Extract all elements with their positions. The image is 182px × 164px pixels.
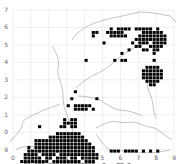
county-boundary-north: [52, 46, 66, 112]
record-cell: [70, 136, 73, 139]
record-cell: [131, 41, 134, 44]
record-cell: [85, 146, 88, 149]
record-cell: [60, 157, 63, 160]
record-cell: [117, 27, 120, 30]
record-cell: [81, 108, 84, 111]
record-cell: [31, 150, 34, 153]
record-cell: [92, 160, 95, 163]
record-cell: [85, 143, 88, 146]
record-cell: [160, 41, 163, 44]
record-cell: [77, 139, 80, 142]
y-axis-label: 4: [4, 58, 8, 65]
record-cell: [63, 139, 66, 142]
record-cell: [145, 66, 148, 69]
record-cell: [92, 108, 95, 111]
record-cell: [77, 104, 80, 107]
record-cell: [156, 66, 159, 69]
record-cell: [153, 80, 156, 83]
record-cell: [67, 132, 70, 135]
district-boundary-central: [76, 44, 142, 88]
record-cell: [92, 150, 95, 153]
x-axis-label: 5: [101, 154, 105, 161]
record-cell: [70, 150, 73, 153]
record-cell: [70, 132, 73, 135]
record-cell: [63, 132, 66, 135]
record-cell: [70, 143, 73, 146]
record-cell: [74, 153, 77, 156]
record-cell: [160, 38, 163, 41]
record-cell: [38, 150, 41, 153]
y-axis-label: 9: [4, 146, 8, 153]
record-cell: [113, 34, 116, 37]
y-axis-label: 5: [4, 41, 8, 48]
record-cell: [149, 83, 152, 86]
record-cell: [138, 34, 141, 37]
record-cell: [149, 66, 152, 69]
record-cell: [52, 136, 55, 139]
record-cell: [45, 143, 48, 146]
record-cell: [85, 104, 88, 107]
record-cell: [85, 139, 88, 142]
record-cell: [149, 76, 152, 79]
record-cell: [74, 118, 77, 121]
record-cell: [77, 150, 80, 153]
y-axis-label: 0: [4, 128, 8, 135]
record-cell: [42, 160, 45, 163]
record-cell: [156, 73, 159, 76]
record-cell: [149, 34, 152, 37]
record-cell: [42, 153, 45, 156]
record-cell: [38, 157, 41, 160]
record-cell: [67, 146, 70, 149]
record-cell: [156, 80, 159, 83]
record-cell: [88, 143, 91, 146]
record-cell: [42, 143, 45, 146]
x-axis-label: 7: [136, 154, 140, 161]
x-axis-label: 0: [11, 154, 15, 161]
record-cell: [60, 153, 63, 156]
record-cell: [81, 139, 84, 142]
record-cell: [124, 59, 127, 62]
record-cell: [74, 143, 77, 146]
record-cell: [60, 125, 63, 128]
x-axis-label: 8: [154, 154, 158, 161]
record-cell: [45, 146, 48, 149]
record-cell: [74, 146, 77, 149]
record-cell: [156, 31, 159, 34]
record-cell: [149, 73, 152, 76]
record-cell: [70, 160, 73, 163]
record-cell: [52, 160, 55, 163]
record-cell: [77, 153, 80, 156]
record-cell: [34, 143, 37, 146]
record-cell: [81, 143, 84, 146]
record-cell: [38, 125, 41, 128]
record-cell: [153, 69, 156, 72]
record-cell: [135, 45, 138, 48]
record-cell: [24, 157, 27, 160]
record-cell: [60, 132, 63, 135]
record-cell: [49, 136, 52, 139]
record-cell: [67, 104, 70, 107]
record-cell: [156, 48, 159, 51]
record-cell: [113, 59, 116, 62]
record-cell: [63, 118, 66, 121]
record-cell: [145, 34, 148, 37]
record-cell: [142, 41, 145, 44]
record-cell: [74, 157, 77, 160]
record-cell: [153, 34, 156, 37]
record-cell: [34, 150, 37, 153]
record-cell: [77, 146, 80, 149]
x-axis-label: 1: [29, 154, 33, 161]
record-cell: [145, 76, 148, 79]
record-cell: [153, 31, 156, 34]
record-cell: [135, 27, 138, 30]
y-axis-label: 6: [4, 23, 8, 30]
y-axis-label: 3: [4, 76, 8, 83]
record-cell: [138, 27, 141, 30]
record-cell: [156, 27, 159, 30]
record-cell: [38, 139, 41, 142]
record-cell: [56, 160, 59, 163]
record-cell: [77, 160, 80, 163]
record-cell: [52, 150, 55, 153]
record-cell: [163, 34, 166, 37]
record-cell: [138, 45, 141, 48]
